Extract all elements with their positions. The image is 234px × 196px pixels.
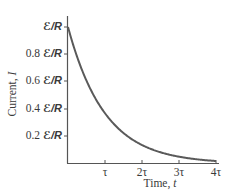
x-tick-label-4tau: 4τ (204, 166, 228, 178)
y-tick-label-1.0: ℰ/R (43, 20, 62, 33)
y-tick-label-0.2: 0.2 ℰ/R (26, 129, 62, 142)
x-tick-label-tau: τ (93, 166, 117, 178)
y-tick-label-0.6: 0.6 ℰ/R (26, 74, 62, 87)
y-axis-label: Current, I (6, 52, 18, 136)
y-tick-label-0.4: 0.4 ℰ/R (26, 102, 62, 115)
chart-plot-area (0, 0, 234, 196)
exponential-decay-curve (68, 27, 216, 161)
x-axis-label: Time, t (120, 177, 200, 189)
y-tick-label-0.8: 0.8 ℰ/R (26, 47, 62, 60)
